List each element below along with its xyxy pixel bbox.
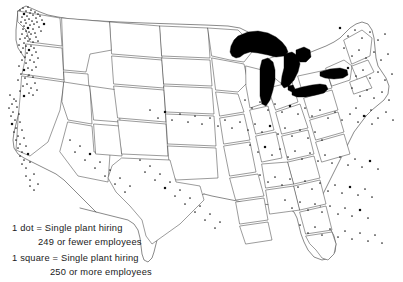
plant-dot-marker bbox=[25, 22, 27, 24]
plant-dot-marker bbox=[239, 121, 241, 123]
plant-dot-marker bbox=[171, 119, 173, 121]
plant-dot-marker bbox=[321, 211, 323, 213]
plant-dot-marker bbox=[377, 71, 379, 73]
plant-dot-marker bbox=[32, 28, 34, 30]
plant-dot-marker bbox=[297, 113, 299, 115]
plant-dot-marker bbox=[304, 107, 306, 109]
plant-square-marker bbox=[369, 160, 371, 162]
plant-dot-marker bbox=[279, 148, 281, 150]
plant-dot-marker bbox=[381, 242, 383, 244]
plant-dot-marker bbox=[69, 139, 71, 141]
plant-dot-marker bbox=[17, 147, 19, 149]
plant-dot-marker bbox=[25, 145, 27, 147]
legend-line-dot: 1 dot = Single plant hiring bbox=[12, 222, 212, 236]
plant-dot-marker bbox=[20, 51, 22, 53]
plant-dot-marker bbox=[19, 121, 21, 123]
plant-dot-marker bbox=[26, 83, 28, 85]
plant-dot-marker bbox=[354, 29, 356, 31]
plant-dot-marker bbox=[29, 59, 31, 61]
plant-dot-marker bbox=[369, 31, 371, 33]
plant-dot-marker bbox=[26, 52, 28, 54]
plant-dot-marker bbox=[26, 15, 28, 17]
plant-dot-marker bbox=[214, 227, 216, 229]
plant-dot-marker bbox=[294, 150, 296, 152]
plant-dot-marker bbox=[144, 171, 146, 173]
plant-dot-marker bbox=[124, 191, 126, 193]
plant-dot-marker bbox=[299, 129, 301, 131]
plant-dot-marker bbox=[157, 117, 159, 119]
plant-dot-marker bbox=[392, 119, 394, 121]
plant-dot-marker bbox=[259, 174, 261, 176]
plant-square-marker bbox=[23, 95, 25, 97]
plant-dot-marker bbox=[33, 23, 35, 25]
plant-dot-marker bbox=[274, 103, 276, 105]
plant-dot-marker bbox=[329, 228, 331, 230]
plant-dot-marker bbox=[37, 40, 39, 42]
plant-dot-marker bbox=[284, 199, 286, 201]
plant-dot-marker bbox=[35, 36, 37, 38]
plant-dot-marker bbox=[281, 111, 283, 113]
plant-dot-marker bbox=[30, 33, 32, 35]
plant-dot-marker bbox=[351, 215, 353, 217]
plant-dot-marker bbox=[28, 74, 30, 76]
legend-line-square: 1 square = Single plant hiring bbox=[12, 252, 212, 266]
plant-dot-marker bbox=[299, 201, 301, 203]
plant-dot-marker bbox=[19, 155, 21, 157]
plant-dot-marker bbox=[311, 115, 313, 117]
plant-dot-marker bbox=[327, 117, 329, 119]
plant-dot-marker bbox=[24, 37, 26, 39]
plant-dot-marker bbox=[21, 129, 23, 131]
plant-dot-marker bbox=[297, 186, 299, 188]
plant-dot-marker bbox=[361, 166, 363, 168]
plant-dot-marker bbox=[351, 87, 353, 89]
plant-dot-marker bbox=[34, 82, 36, 84]
plant-dot-marker bbox=[307, 209, 309, 211]
plant-dot-marker bbox=[319, 109, 321, 111]
plant-dot-marker bbox=[371, 196, 373, 198]
plant-dot-marker bbox=[32, 41, 34, 43]
plant-dot-marker bbox=[179, 189, 181, 191]
plant-dot-marker bbox=[32, 76, 34, 78]
plant-dot-marker bbox=[27, 67, 29, 69]
plant-dot-marker bbox=[26, 35, 28, 37]
plant-dot-marker bbox=[19, 9, 21, 11]
plant-dot-marker bbox=[21, 16, 23, 18]
plant-square-marker bbox=[23, 13, 25, 15]
plant-dot-marker bbox=[219, 221, 221, 223]
plant-dot-marker bbox=[377, 39, 379, 41]
plant-dot-marker bbox=[139, 159, 141, 161]
plant-dot-marker bbox=[367, 217, 369, 219]
legend-line-dot-detail: 249 or fewer employees bbox=[12, 236, 212, 250]
plant-dot-marker bbox=[22, 28, 24, 30]
us-plant-hiring-dot-map: 1 dot = Single plant hiring 249 or fewer… bbox=[0, 0, 403, 282]
plant-dot-marker bbox=[307, 232, 309, 234]
plant-dot-marker bbox=[381, 91, 383, 93]
plant-square-marker bbox=[349, 186, 351, 188]
plant-dot-marker bbox=[384, 33, 386, 35]
plant-dot-marker bbox=[29, 179, 31, 181]
plant-dot-marker bbox=[25, 30, 27, 32]
plant-dot-marker bbox=[33, 173, 35, 175]
plant-dot-marker bbox=[274, 176, 276, 178]
plant-dot-marker bbox=[311, 188, 313, 190]
plant-dot-marker bbox=[377, 117, 379, 119]
plant-dot-marker bbox=[14, 119, 16, 121]
plant-dot-marker bbox=[169, 181, 171, 183]
plant-dot-marker bbox=[149, 165, 151, 167]
plant-dot-marker bbox=[15, 139, 17, 141]
plant-dot-marker bbox=[22, 85, 24, 87]
plant-dot-marker bbox=[359, 232, 361, 234]
plant-dot-marker bbox=[37, 13, 39, 15]
plant-dot-marker bbox=[32, 94, 34, 96]
plant-dot-marker bbox=[334, 111, 336, 113]
plant-dot-marker bbox=[35, 17, 37, 19]
plant-dot-marker bbox=[365, 57, 367, 59]
plant-dot-marker bbox=[79, 145, 81, 147]
plant-dot-marker bbox=[354, 158, 356, 160]
plant-dot-marker bbox=[84, 159, 86, 161]
plant-dot-marker bbox=[321, 234, 323, 236]
legend-line-square-detail: 250 or more employees bbox=[12, 266, 212, 280]
plant-dot-marker bbox=[28, 92, 30, 94]
plant-dot-marker bbox=[39, 15, 41, 17]
plant-dot-marker bbox=[31, 69, 33, 71]
